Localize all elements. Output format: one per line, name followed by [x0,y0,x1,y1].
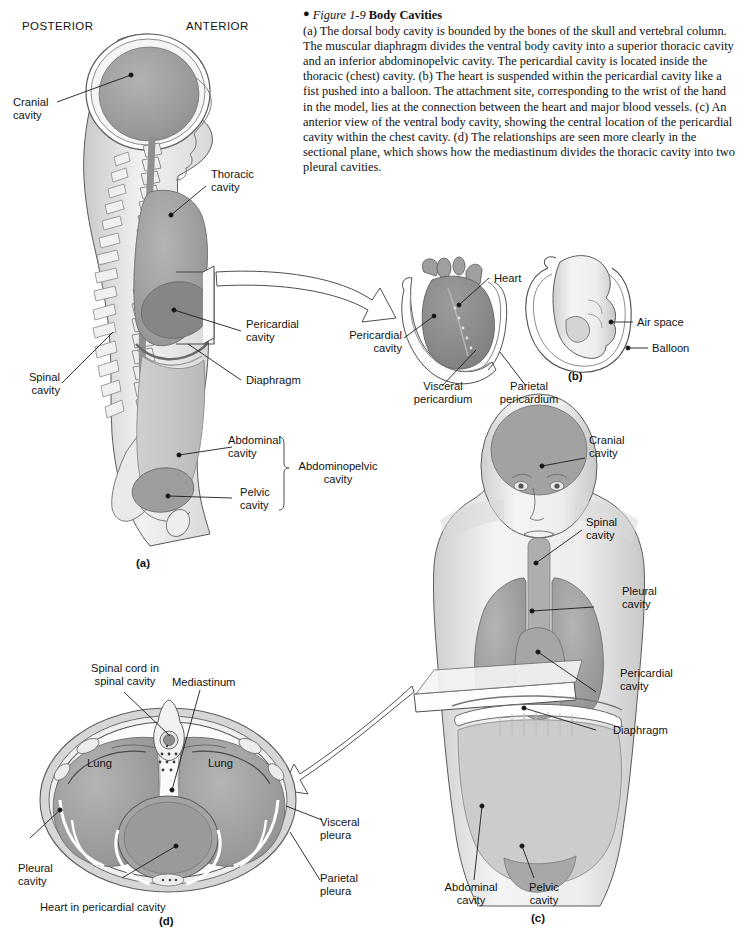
orientation-anterior: ANTERIOR [186,20,249,32]
panel-b-illustration [402,256,648,386]
label-parietal-pleura-d: Parietal pleura [320,872,358,897]
panel-d-illustration [30,690,322,892]
label-pleural-cavity-d: Pleural cavity [18,862,53,887]
label-pleural-cavity-c: Pleural cavity [622,585,657,610]
label-spinal-cavity-c: Spinal cavity [586,516,617,541]
label-balloon-b: Balloon [652,342,689,355]
label-visceral-pericardium-b: Visceral pericardium [404,380,482,405]
label-parietal-pericardium-b: Parietal pericardium [490,380,568,405]
label-visceral-pleura-d: Visceral pleura [320,816,360,841]
label-pelvic-cavity-a: Pelvic cavity [240,486,270,511]
panel-letter-d: (d) [159,915,174,927]
label-pericardial-cavity-c: Pericardial cavity [620,667,673,692]
label-heart-pericardial-d: Heart in pericardial cavity [40,901,166,914]
panel-letter-c: (c) [531,912,545,924]
label-diaphragm-c: Diaphragm [613,724,668,737]
label-spinal-cord-d: Spinal cord in spinal cavity [70,662,180,687]
label-mediastinum-d: Mediastinum [172,676,235,689]
label-cranial-cavity-a: Cranial cavity [13,96,48,121]
label-cranial-cavity-c: Cranial cavity [589,434,624,459]
orientation-posterior: POSTERIOR [22,20,93,32]
figure-title: Body Cavities [369,8,442,22]
figure-number: Figure 1-9 [313,8,366,22]
label-lung-left-d: Lung [87,757,112,770]
label-lung-right-d: Lung [208,757,233,770]
label-spinal-cavity-a: Spinal cavity [8,371,60,396]
label-pericardial-cavity-a: Pericardial cavity [246,318,299,343]
figure-caption-block: ● Figure 1-9 Body Cavities (a) The dorsa… [303,6,735,175]
label-thoracic-cavity-a: Thoracic cavity [211,168,254,193]
figure-bullet-icon: ● [303,7,310,19]
panel-letter-a: (a) [136,557,150,569]
figure-caption-text: (a) The dorsal body cavity is bounded by… [303,24,735,174]
label-pericardial-cavity-b: Pericardial cavity [322,329,402,354]
label-heart-b: Heart [494,272,521,285]
cranial-cavity-region-c [491,405,587,495]
label-air-space-b: Air space [637,316,684,329]
label-abdominopelvic-cavity-a: Abdominopelvic cavity [291,460,385,485]
label-pelvic-cavity-c: Pelvic cavity [513,881,575,906]
label-abdominal-cavity-a: Abdominal cavity [228,434,281,459]
cranial-cavity-region-a [99,47,199,141]
label-diaphragm-a: Diaphragm [246,374,301,387]
spinal-cord-d [164,735,175,746]
label-abdominal-cavity-c: Abdominal cavity [432,881,510,906]
fist-shape-b [553,256,616,359]
panel-letter-b: (b) [568,370,583,382]
